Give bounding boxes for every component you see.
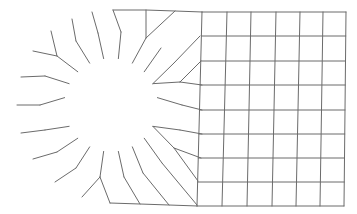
bottom-boundary (110, 203, 197, 206)
radial-spoke-inner (40, 98, 65, 105)
grid-column-line (272, 12, 276, 206)
radial-spoke-inner (45, 126, 69, 130)
radial-spoke-inner (98, 33, 104, 59)
radial-spoke-outer (162, 163, 197, 205)
radial-spoke-inner (57, 56, 78, 72)
radial-spoke-inner (45, 76, 69, 84)
radial-spoke-outer (51, 31, 57, 56)
top-boundary (113, 10, 202, 12)
radial-spoke-inner (132, 38, 146, 63)
radial-spoke-outer (82, 177, 100, 197)
grid-column-line (222, 12, 227, 206)
radial-spoke-outer (33, 51, 57, 56)
radial-spoke-inner (153, 126, 180, 130)
radial-spoke-outer (124, 177, 140, 204)
hole-boundary (65, 59, 158, 152)
radial-spoke-outer (182, 105, 202, 110)
radial-spoke-outer (174, 36, 200, 63)
middle-ring (40, 32, 182, 177)
radial-spoke-inner (153, 82, 180, 84)
radial-spoke-inner (118, 151, 124, 177)
radial-spoke-inner (144, 138, 162, 163)
radial-spoke-inner (157, 98, 182, 105)
radial-spoke-inner (118, 32, 121, 59)
radial-spoke-outer (180, 61, 201, 82)
structured-grid (197, 12, 346, 206)
radial-spoke-outer (72, 19, 76, 41)
radial-spoke-inner (100, 151, 104, 177)
radial-spoke-inner (132, 147, 143, 173)
radial-spoke-inner (57, 138, 78, 152)
grid-column-line (320, 12, 323, 206)
radial-spoke-outer (21, 130, 45, 133)
radial-spoke-outer (92, 12, 98, 33)
radial-spoke-inner (76, 147, 90, 168)
radial-spoke-inner (144, 48, 161, 72)
outer-boundary-ring (17, 10, 202, 205)
radial-spoke-outer (55, 168, 76, 182)
plate-with-hole-mesh (0, 0, 357, 214)
radial-spoke-outer (146, 11, 175, 38)
radial-spoke-inner (153, 63, 174, 84)
radial-spoke-outer (143, 173, 169, 205)
polar-rings (17, 10, 202, 205)
radial-spoke-outer (100, 177, 110, 203)
radial-spokes (17, 10, 202, 205)
radial-spoke-outer (180, 82, 202, 85)
radial-spoke-outer (21, 76, 45, 77)
grid-column-line (344, 12, 346, 206)
radial-spoke-outer (33, 152, 57, 159)
radial-spoke-inner (76, 41, 90, 63)
grid-column-line (247, 12, 251, 206)
hole-edge (65, 59, 158, 152)
radial-spoke-outer (113, 10, 121, 32)
grid-column-line (296, 12, 300, 206)
radial-spoke-inner (153, 126, 174, 148)
